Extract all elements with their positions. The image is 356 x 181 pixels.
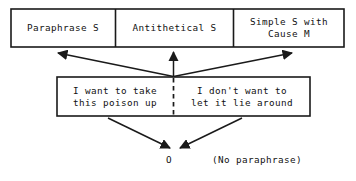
upward-arrow-group bbox=[58, 52, 292, 77]
category-band bbox=[11, 9, 344, 47]
diagram-canvas: Paraphrase S Antithetical S Simple S wit… bbox=[0, 0, 356, 181]
downward-arrow-group bbox=[108, 118, 242, 148]
category-band-outline bbox=[11, 9, 344, 47]
clause-box bbox=[57, 77, 310, 116]
arrow-left-clause-to-outcome bbox=[108, 118, 170, 148]
arrow-right-clause-to-outcome bbox=[180, 118, 242, 148]
clause-box-outline bbox=[57, 77, 310, 116]
arrow-to-paraphrase bbox=[58, 53, 174, 77]
diagram-vector-layer bbox=[0, 0, 356, 181]
arrow-to-simple-cause bbox=[174, 53, 293, 77]
